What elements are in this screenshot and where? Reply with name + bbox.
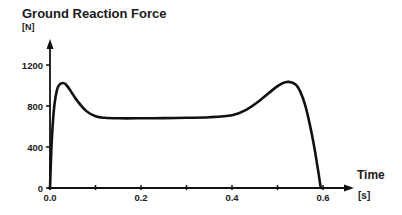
y-axis-arrow-icon xyxy=(47,39,54,49)
x-tick-label: 0.2 xyxy=(134,192,147,203)
force-curve xyxy=(50,82,321,188)
ground-reaction-force-chart: Ground Reaction Force [N] 04008001200 0.… xyxy=(0,0,402,215)
y-tick-label: 0 xyxy=(38,183,43,194)
x-axis-arrow-icon xyxy=(344,185,354,192)
chart-title: Ground Reaction Force xyxy=(22,6,166,21)
y-axis-unit: [N] xyxy=(22,22,35,32)
y-tick-label: 1200 xyxy=(22,60,43,71)
y-ticks: 04008001200 xyxy=(22,60,50,194)
x-tick-label: 0.4 xyxy=(225,192,239,203)
y-tick-label: 400 xyxy=(27,142,43,153)
y-tick-label: 800 xyxy=(27,101,43,112)
x-tick-label: 0.6 xyxy=(316,192,329,203)
x-axis-unit: [s] xyxy=(358,190,370,201)
x-axis-title: Time xyxy=(357,168,385,182)
x-tick-label: 0.0 xyxy=(43,192,56,203)
